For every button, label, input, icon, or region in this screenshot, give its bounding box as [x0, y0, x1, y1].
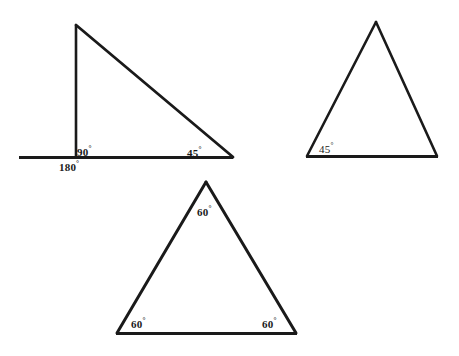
degree-symbol: ° — [198, 145, 201, 154]
angle-label-180-straight-angle: 180° — [59, 160, 79, 173]
angle-label-45-isosceles-triangle: 45° — [319, 142, 334, 155]
isosceles-triangle-group — [306, 22, 438, 157]
degree-symbol: ° — [208, 204, 211, 213]
isosceles-left-side — [307, 22, 376, 156]
right-triangle-group — [19, 25, 233, 158]
hypotenuse — [76, 25, 233, 157]
degree-symbol: ° — [76, 159, 79, 168]
angle-label-60-bottom-right: 60° — [262, 317, 277, 330]
angle-label-60-apex: 60° — [197, 205, 212, 218]
figure-canvas — [0, 0, 459, 356]
geometry-diagram: 90° 180° 45° 45° 60° 60° 60° — [0, 0, 459, 356]
degree-symbol: ° — [330, 141, 333, 150]
equilateral-right-side — [206, 182, 296, 333]
isosceles-right-side — [376, 22, 437, 156]
angle-label-90-right-triangle: 90° — [77, 145, 92, 158]
angle-label-45-right-triangle: 45° — [187, 146, 202, 159]
equilateral-left-side — [117, 182, 206, 333]
degree-symbol: ° — [273, 316, 276, 325]
angle-label-60-bottom-left: 60° — [131, 317, 146, 330]
degree-symbol: ° — [88, 144, 91, 153]
degree-symbol: ° — [142, 316, 145, 325]
